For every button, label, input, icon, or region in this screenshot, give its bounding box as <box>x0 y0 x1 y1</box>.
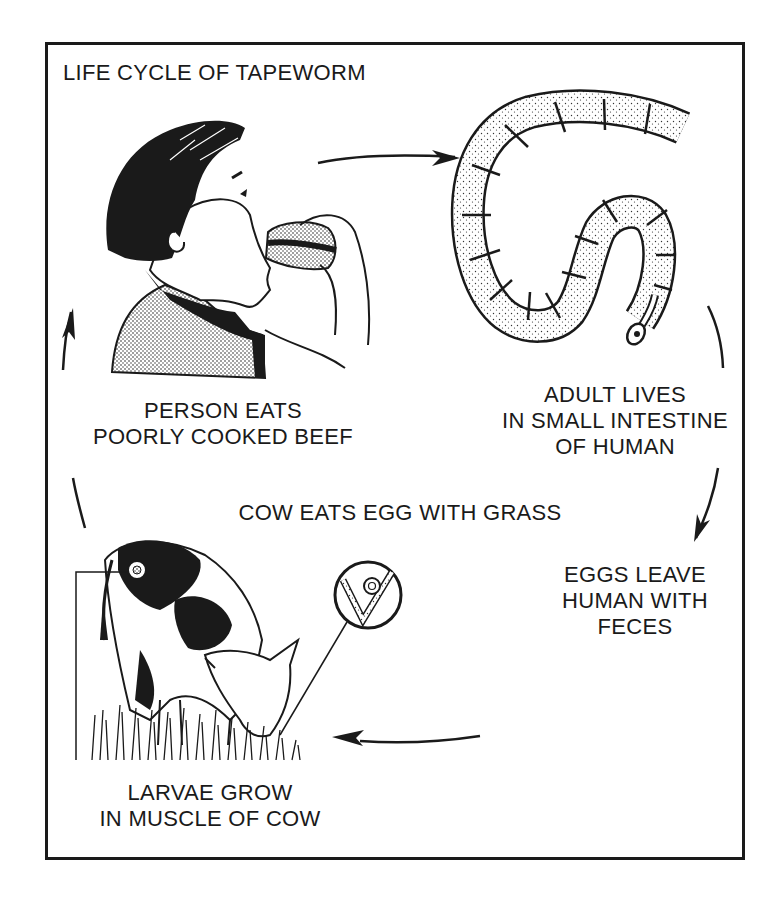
stage-label-line: IN SMALL INTESTINE <box>470 408 760 434</box>
stage-label-eggs-leave: EGGS LEAVE HUMAN WITH FECES <box>510 562 760 640</box>
stage-label-adult-lives: ADULT LIVES IN SMALL INTESTINE OF HUMAN <box>470 382 760 460</box>
stage-label-line: PERSON EATS <box>78 398 368 424</box>
stage-label-line: OF HUMAN <box>470 434 760 460</box>
stage-label-line: POORLY COOKED BEEF <box>78 424 368 450</box>
stage-label-line: IN MUSCLE OF COW <box>60 806 360 832</box>
stage-label-line: HUMAN WITH <box>510 588 760 614</box>
stage-label-person-eats: PERSON EATS POORLY COOKED BEEF <box>78 398 368 450</box>
stage-label-line: FECES <box>510 614 760 640</box>
center-label-cow-eats-egg: COW EATS EGG WITH GRASS <box>210 500 590 526</box>
stage-label-line: LARVAE GROW <box>60 780 360 806</box>
stage-label-line: EGGS LEAVE <box>510 562 760 588</box>
stage-label-larvae-grow: LARVAE GROW IN MUSCLE OF COW <box>60 780 360 832</box>
stage-label-line: ADULT LIVES <box>470 382 760 408</box>
diagram-title: LIFE CYCLE OF TAPEWORM <box>63 60 366 86</box>
